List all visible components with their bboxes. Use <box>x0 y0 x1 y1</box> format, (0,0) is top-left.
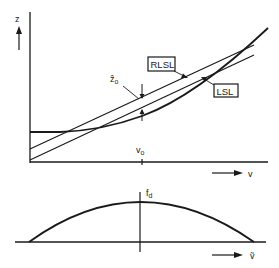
diagram-canvas: z v vo ẑo RLSL <box>0 0 279 268</box>
rlsl-label-box: RLSL <box>148 57 188 78</box>
v-tilde-axis-arrow-icon <box>212 252 243 258</box>
svg-text:LSL: LSL <box>217 86 234 97</box>
nonlinear-curve <box>30 28 268 132</box>
v-tilde-axis-label: ṽ <box>250 251 255 261</box>
z0-hat-label: ẑo <box>110 74 119 85</box>
z-axis-arrow-icon <box>16 26 22 50</box>
svg-text:RLSL: RLSL <box>151 59 175 70</box>
z-axis-label: z <box>15 14 20 24</box>
lsl-line <box>30 55 254 160</box>
density-arc <box>29 202 254 242</box>
v-axis-label: v <box>248 169 253 179</box>
top-plot: z v vo ẑo RLSL <box>15 12 268 179</box>
z0-leader-line <box>123 86 139 99</box>
bottom-plot: fd ṽ <box>15 188 266 261</box>
v-axis-arrow-icon <box>212 170 243 176</box>
v0-label: vo <box>136 145 145 156</box>
fd-label: fd <box>146 188 153 199</box>
